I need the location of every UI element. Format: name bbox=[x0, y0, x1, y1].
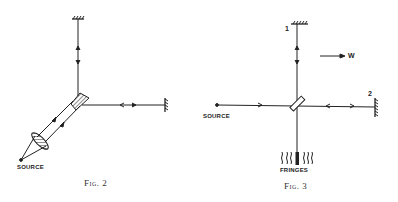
fig2-arrow-right bbox=[132, 103, 136, 107]
fig2-diag-arrow-2 bbox=[60, 122, 64, 127]
fig3-caption: Fig. 3 bbox=[284, 181, 307, 191]
fig3-mirror-2-label: 2 bbox=[368, 90, 372, 97]
fig2-diag-arrow-1 bbox=[52, 117, 56, 122]
fig3-mirror-2 bbox=[375, 98, 378, 117]
fig3-mirror-1-label: 1 bbox=[285, 25, 289, 32]
fig2-source-label: SOURCE bbox=[17, 164, 44, 170]
fig3-diagram bbox=[216, 21, 378, 165]
fig3-source-label: SOURCE bbox=[203, 113, 230, 119]
fig3-fringes bbox=[282, 152, 313, 165]
fig2-top-mirror bbox=[72, 16, 84, 19]
fig3-arrow-up bbox=[295, 46, 299, 50]
fig2-beam-splitter bbox=[71, 93, 89, 110]
fig3-wind-arrowhead bbox=[340, 54, 345, 58]
fig3-arrow-source bbox=[258, 103, 262, 107]
fig3-arrow-down bbox=[295, 60, 299, 64]
fig3-wind-label: W bbox=[348, 52, 355, 59]
fig3-fringes-label: FRINGES bbox=[280, 167, 308, 173]
fig2-arrow-down bbox=[76, 60, 80, 64]
fig2-arrow-up bbox=[76, 46, 80, 50]
fig2-source-point bbox=[20, 159, 23, 162]
fig2-caption: Fig. 2 bbox=[84, 178, 107, 188]
diagram-canvas bbox=[0, 0, 398, 202]
fig2-diagram bbox=[20, 16, 168, 161]
fig3-arrow-right bbox=[350, 104, 354, 108]
fig2-right-mirror bbox=[165, 98, 168, 112]
fig3-source-point bbox=[216, 104, 219, 107]
fig3-mirror-1 bbox=[291, 21, 308, 24]
